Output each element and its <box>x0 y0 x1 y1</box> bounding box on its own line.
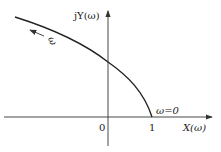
y-axis-label: jY(ω) <box>74 11 100 21</box>
direction-arrow-icon <box>30 30 44 36</box>
origin-label: 0 <box>99 123 105 133</box>
start-point-label: ω=0 <box>156 106 179 116</box>
x-axis-label: X(ω) <box>183 123 206 133</box>
tick-one-label: 1 <box>149 123 155 133</box>
